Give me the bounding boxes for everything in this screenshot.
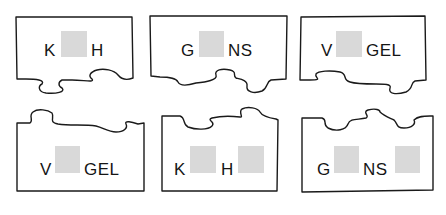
letter-segment: H [221,160,234,179]
blank-box [336,31,362,57]
blank-box [395,146,420,173]
puzzle-piece-top-3: V GEL [300,16,426,94]
blank-box [55,146,80,173]
letter-segment: G [181,41,195,60]
letter-segment: GEL [366,41,402,60]
blank-box [190,146,216,173]
blank-box [199,31,224,57]
letter-segment: H [91,41,104,60]
letter-segment: NS [228,41,253,60]
letter-segment: G [317,160,331,179]
puzzle-piece-bottom-3: G NS [302,109,433,192]
blank-box [238,146,264,173]
piece-outline [17,110,144,191]
letter-segment: K [174,160,186,179]
letter-segment: V [321,41,333,60]
puzzle-piece-top-1: K H [16,17,133,93]
blank-box [334,146,359,173]
letter-segment: NS [363,160,388,179]
puzzle-piece-bottom-1: V GEL [17,110,144,191]
puzzle-diagram: K H G NS V GEL V GEL K H G NS [0,0,446,215]
letter-segment: V [40,160,52,179]
puzzle-piece-bottom-2: K H [162,108,278,191]
letter-segment: K [44,41,56,60]
letter-segment: GEL [84,160,120,179]
puzzle-piece-top-2: G NS [150,16,287,92]
blank-box [61,31,87,57]
piece-outline [300,16,426,94]
